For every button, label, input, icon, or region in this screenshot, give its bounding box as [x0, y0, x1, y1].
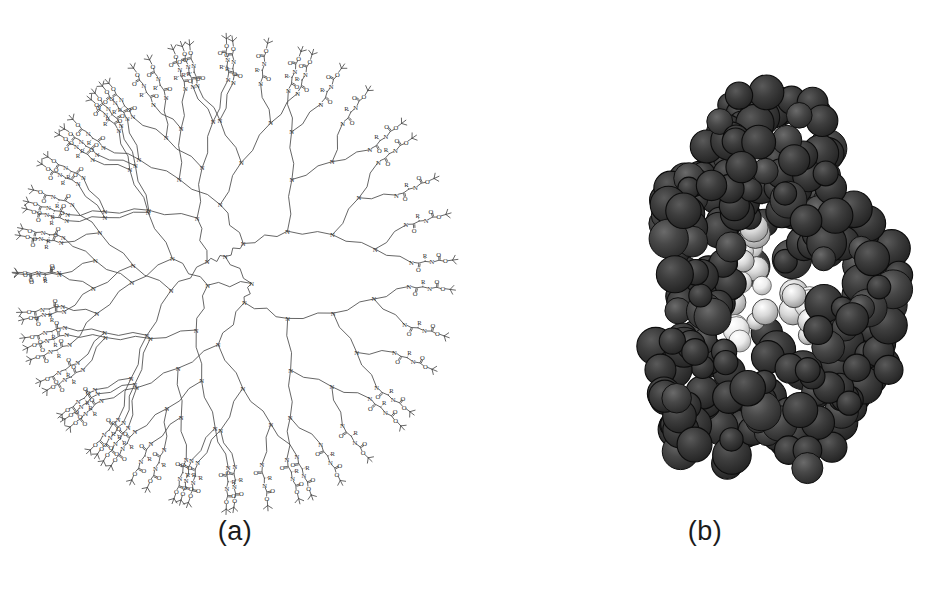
svg-text:R: R: [192, 471, 197, 478]
svg-text:R: R: [87, 139, 92, 146]
cpk-sphere: [666, 193, 702, 229]
svg-text:O: O: [66, 192, 71, 199]
svg-text:R: R: [88, 404, 93, 411]
cpk-sphere: [774, 182, 797, 205]
svg-text:O: O: [168, 85, 173, 92]
svg-text:O: O: [402, 404, 407, 411]
svg-text:O: O: [66, 356, 71, 363]
svg-text:N: N: [116, 416, 121, 423]
svg-text:O: O: [425, 178, 430, 185]
svg-text:N: N: [60, 303, 65, 310]
cpk-sphere: [753, 276, 772, 295]
svg-text:O: O: [377, 147, 382, 154]
svg-text:O: O: [393, 417, 398, 424]
svg-text:O: O: [36, 353, 41, 360]
svg-text:N: N: [391, 396, 396, 403]
svg-text:O: O: [218, 49, 223, 56]
svg-text:O: O: [416, 174, 421, 181]
svg-text:O: O: [201, 74, 206, 81]
svg-text:N: N: [189, 457, 194, 464]
svg-text:R: R: [320, 86, 325, 93]
svg-text:O: O: [435, 278, 440, 285]
dendrimer-2d-structure: NNNNNNNNNNNNNNNNNNNNNNNNNNNNNNNNNNNNNNNN…: [0, 0, 470, 520]
svg-text:O: O: [435, 330, 440, 337]
svg-text:R: R: [284, 72, 289, 79]
svg-text:O: O: [147, 71, 152, 78]
svg-text:O: O: [403, 195, 408, 202]
svg-text:N: N: [184, 477, 189, 484]
svg-text:O: O: [54, 319, 59, 326]
svg-text:N: N: [48, 348, 53, 355]
svg-text:R: R: [382, 399, 387, 406]
svg-text:R: R: [76, 152, 81, 159]
svg-text:O: O: [94, 101, 99, 108]
svg-text:O: O: [254, 469, 259, 476]
svg-text:O: O: [299, 480, 304, 487]
svg-text:R: R: [225, 65, 230, 72]
svg-text:O: O: [139, 442, 144, 449]
svg-text:R: R: [353, 429, 358, 436]
panel-b: (b): [470, 0, 940, 594]
svg-text:O: O: [339, 432, 344, 439]
svg-text:N: N: [61, 234, 66, 241]
svg-text:N: N: [40, 306, 45, 313]
svg-text:O: O: [123, 430, 128, 437]
svg-text:O: O: [394, 124, 399, 131]
dendrimer-2d-svg: NNNNNNNNNNNNNNNNNNNNNNNNNNNNNNNNNNNNNNNN…: [0, 0, 470, 520]
svg-text:N: N: [38, 235, 43, 242]
svg-text:O: O: [73, 171, 78, 178]
svg-text:O: O: [51, 383, 56, 390]
svg-text:N: N: [301, 472, 306, 479]
svg-text:R: R: [305, 464, 310, 471]
svg-text:R: R: [407, 349, 412, 356]
svg-text:O: O: [56, 225, 61, 232]
svg-text:O: O: [337, 462, 342, 469]
svg-text:O: O: [219, 471, 224, 478]
svg-text:O: O: [25, 233, 30, 240]
svg-text:O: O: [352, 94, 357, 101]
cpk-sphere: [725, 82, 752, 109]
svg-text:O: O: [29, 278, 34, 285]
svg-text:N: N: [51, 193, 56, 200]
svg-text:O: O: [376, 393, 381, 400]
svg-text:R: R: [53, 341, 58, 348]
cpk-sphere: [790, 205, 822, 237]
svg-text:O: O: [196, 487, 201, 494]
svg-text:O: O: [106, 416, 111, 423]
svg-text:O: O: [404, 139, 409, 146]
svg-text:O: O: [368, 405, 373, 412]
panel-b-caption: (b): [470, 516, 940, 547]
svg-text:R: R: [112, 108, 117, 115]
svg-text:N: N: [64, 331, 69, 338]
svg-text:N: N: [430, 258, 435, 265]
svg-text:N: N: [67, 341, 72, 348]
svg-text:O: O: [188, 492, 193, 499]
cpk-sphere: [843, 354, 870, 381]
svg-text:O: O: [315, 450, 320, 457]
cpk-sphere: [874, 355, 903, 384]
svg-text:O: O: [401, 395, 406, 402]
cpk-sphere: [696, 170, 726, 200]
svg-text:N: N: [57, 369, 62, 376]
svg-text:N: N: [411, 358, 416, 365]
svg-text:N: N: [63, 164, 68, 171]
svg-text:R: R: [55, 202, 60, 209]
cpk-sphere: [795, 358, 820, 383]
svg-text:R: R: [103, 120, 108, 127]
svg-text:N: N: [86, 130, 91, 137]
svg-text:R: R: [72, 378, 77, 385]
svg-text:O: O: [75, 121, 80, 128]
svg-text:O: O: [256, 52, 261, 59]
svg-text:R: R: [130, 443, 135, 450]
svg-text:N: N: [79, 138, 84, 145]
svg-text:N: N: [177, 66, 182, 73]
svg-text:N: N: [367, 146, 372, 153]
svg-text:O: O: [188, 49, 193, 56]
cpk-sphere: [782, 284, 806, 308]
cpk-sphere: [812, 247, 836, 271]
svg-text:R: R: [57, 352, 62, 359]
svg-text:O: O: [109, 444, 114, 451]
svg-text:O: O: [27, 308, 32, 315]
svg-text:O: O: [436, 251, 441, 258]
cpk-sphere: [656, 256, 693, 293]
